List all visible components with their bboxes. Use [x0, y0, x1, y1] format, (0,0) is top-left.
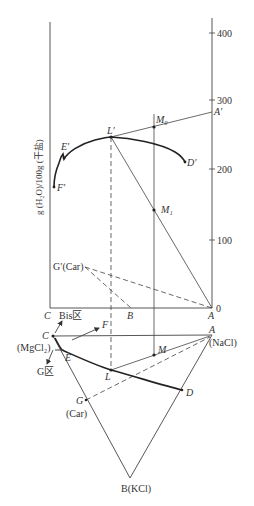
label-G-sub: (Car)	[66, 408, 87, 420]
label-L: L	[104, 371, 111, 382]
arrow-F	[72, 328, 99, 340]
line-L-prime-A	[111, 137, 212, 308]
label-G: G	[76, 395, 83, 406]
line-G-prime-B	[85, 267, 131, 308]
label-M0: M₀	[155, 114, 168, 125]
line-G-prime-A	[85, 267, 212, 308]
label-A: A	[208, 324, 216, 335]
label-B-upper: B	[127, 310, 133, 321]
point-E-prime	[63, 157, 66, 160]
point-D	[181, 389, 184, 392]
tick-400: 400	[217, 28, 232, 39]
point-C	[52, 335, 55, 338]
tick-200: 200	[217, 164, 232, 175]
label-A-sub: (NaCl)	[209, 337, 237, 349]
label-L-prime: L′	[106, 125, 116, 136]
label-M: M	[157, 344, 167, 355]
label-B-KCl: B(KCl)	[121, 483, 151, 495]
label-M1: M₁	[160, 204, 173, 215]
point-M	[152, 353, 155, 356]
point-F-prime	[53, 186, 56, 189]
label-G-prime: G′(Car)	[53, 261, 84, 273]
edge-C-A	[53, 335, 212, 336]
label-C-sub: (MgCl₂)	[17, 342, 51, 354]
edge-A-B	[130, 335, 212, 478]
phase-diagram: 400 300 200 100 0 g (H₂O)/100g (干盐) A′ L…	[0, 0, 254, 506]
point-M0	[152, 125, 155, 128]
tick-0: 0	[216, 303, 221, 314]
label-A-upper: A	[207, 310, 215, 321]
label-F: F	[101, 319, 109, 330]
label-D: D	[185, 387, 194, 398]
tick-300: 300	[217, 95, 232, 106]
point-G	[85, 399, 88, 402]
label-C: C	[42, 330, 49, 341]
label-D-prime: D′	[186, 157, 197, 168]
label-E-prime: E′	[60, 141, 70, 152]
point-D-prime	[184, 161, 187, 164]
tick-100: 100	[217, 235, 232, 246]
label-A-prime: A′	[213, 106, 223, 117]
solubility-curve-upper	[54, 137, 185, 187]
arrow-bis	[55, 321, 62, 333]
label-E: E	[64, 352, 71, 363]
label-C-upper: C	[44, 310, 51, 321]
label-F-prime: F′	[56, 182, 66, 193]
label-bis-region: Bis区	[59, 310, 82, 321]
lower-diagram	[47, 321, 212, 478]
point-M1	[152, 208, 155, 211]
label-g-region: G区	[37, 366, 54, 377]
y-axis-title: g (H₂O)/100g (干盐)	[33, 139, 44, 215]
